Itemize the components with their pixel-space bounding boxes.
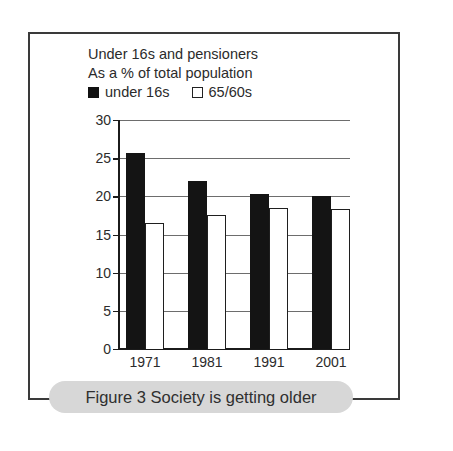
- legend-label-under-16s: under 16s: [105, 84, 170, 100]
- figure-container: Under 16s and pensioners As a % of total…: [0, 0, 453, 451]
- x-tick-label: 1981: [188, 354, 226, 370]
- bar: [145, 223, 164, 349]
- bar: [312, 196, 331, 349]
- legend-item-under-16s: under 16s: [88, 84, 170, 100]
- chart-subtitle: As a % of total population: [88, 64, 368, 83]
- bar-group: [188, 120, 226, 349]
- figure-caption: Figure 3 Society is getting older: [49, 381, 353, 413]
- y-tick-mark: [113, 349, 119, 350]
- bar: [269, 208, 288, 349]
- bar-group: [250, 120, 288, 349]
- legend-item-65-60s: 65/60s: [192, 84, 253, 100]
- y-tick-label: 5: [103, 303, 111, 319]
- chart-heading: Under 16s and pensioners As a % of total…: [88, 45, 368, 83]
- y-tick-label: 30: [95, 112, 111, 128]
- y-tick-label: 15: [95, 227, 111, 243]
- bar: [250, 194, 269, 349]
- y-tick-label: 25: [95, 150, 111, 166]
- bar: [207, 215, 226, 349]
- bar-group: [312, 120, 350, 349]
- y-tick-label: 10: [95, 265, 111, 281]
- y-tick-label: 20: [95, 188, 111, 204]
- bar-group: [126, 120, 164, 349]
- bars-layer: [118, 120, 350, 349]
- plot-area: 051015202530 1971198119912001: [118, 120, 350, 352]
- legend-swatch-filled-square-icon: [88, 87, 99, 98]
- bar: [126, 153, 145, 349]
- legend-swatch-hollow-square-icon: [192, 87, 203, 98]
- y-tick-label: 0: [103, 341, 111, 357]
- bar: [188, 181, 207, 349]
- x-tick-label: 2001: [312, 354, 350, 370]
- chart-legend: under 16s 65/60s: [88, 84, 252, 100]
- legend-label-65-60s: 65/60s: [209, 84, 253, 100]
- bar: [331, 209, 350, 349]
- x-tick-label: 1991: [250, 354, 288, 370]
- x-tick-label: 1971: [126, 354, 164, 370]
- chart-title: Under 16s and pensioners: [88, 45, 368, 64]
